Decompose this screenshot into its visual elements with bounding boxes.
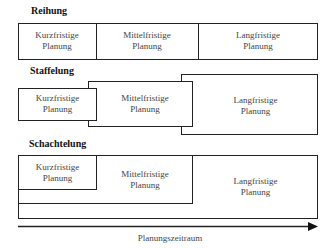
- arrowhead-icon: [308, 222, 318, 231]
- time-axis: [0, 0, 332, 248]
- time-axis-label: Planungszeitraum: [100, 233, 240, 244]
